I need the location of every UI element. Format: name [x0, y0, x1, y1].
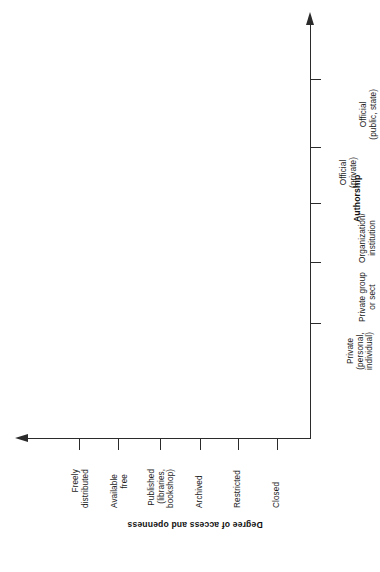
openness-tick-5 [277, 439, 278, 450]
authorship-tick-label-private-group: Private group or sect [358, 272, 377, 322]
openness-tick-label-closed: Closed [272, 482, 282, 508]
authorship-axis-arrow-icon [306, 12, 314, 25]
authorship-tick-1 [311, 262, 321, 263]
openness-tick-3 [200, 439, 201, 450]
openness-tick-label-freely-distributed: Freely distributed [71, 469, 90, 508]
authorship-tick-0 [311, 323, 321, 324]
authorship-tick-label-private-personal: Private (personal, individual) [346, 332, 375, 370]
openness-axis-line [27, 438, 311, 439]
authorship-tick-4 [311, 79, 321, 80]
openness-axis-title: Degree of access and openness [110, 520, 280, 530]
authorship-tick-2 [311, 203, 321, 204]
authorship-axis-title: Authorship [352, 175, 362, 222]
openness-axis-arrow-icon [15, 434, 28, 442]
openness-tick-label-archived: Archived [195, 475, 205, 508]
openness-tick-1 [118, 439, 119, 450]
openness-tick-0 [79, 439, 80, 450]
openness-tick-4 [238, 439, 239, 450]
authorship-axis-line [310, 22, 311, 439]
openness-tick-2 [160, 439, 161, 450]
figure-canvas: Private (personal, individual) Private g… [0, 0, 380, 572]
openness-tick-label-available-free: Available free [110, 474, 129, 508]
openness-tick-label-published: Published (libraries, bookshop) [147, 469, 176, 508]
openness-tick-label-restricted: Restricted [233, 470, 243, 508]
authorship-tick-label-official-public: Official (public, state) [359, 89, 378, 140]
authorship-tick-3 [311, 147, 321, 148]
